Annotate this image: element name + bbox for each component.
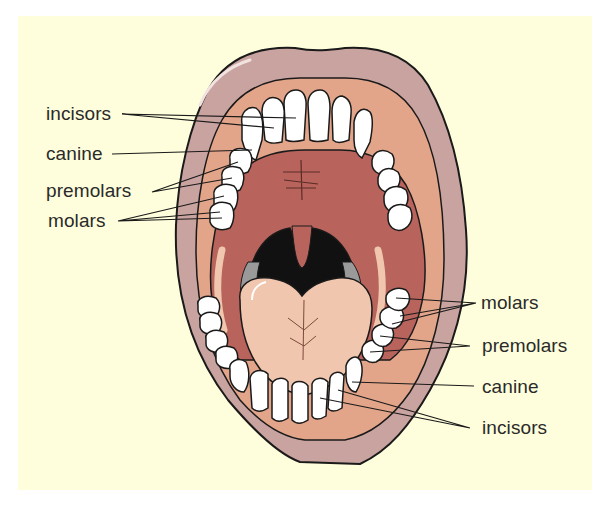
lower-molar [386,288,409,310]
label-lower-incisors: incisors [482,418,547,438]
label-upper-molars: molars [48,211,106,231]
lower-incisor [272,378,288,421]
label-upper-premolars: premolars [46,181,131,201]
label-lower-canine: canine [482,377,539,397]
upper-incisor [308,90,330,142]
label-upper-canine: canine [46,144,103,164]
label-upper-incisors: incisors [46,104,111,124]
lower-incisor [250,371,268,411]
lower-incisor [292,382,308,424]
upper-molar [210,202,234,229]
lower-incisor [328,372,344,411]
upper-incisor [332,96,351,142]
upper-incisor [262,98,284,144]
upper-molar [388,205,412,231]
upper-incisor [284,90,306,142]
label-lower-premolars: premolars [482,336,567,356]
label-lower-molars: molars [481,293,539,313]
